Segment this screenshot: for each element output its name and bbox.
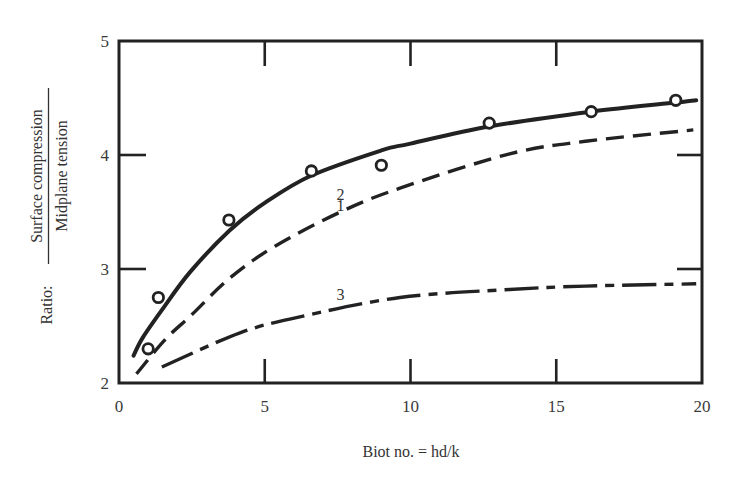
chart: 051015202345 123 Biot no. = hd/k Ratio: … xyxy=(0,0,735,484)
data-point-marker xyxy=(143,344,153,354)
axis-ticks: 051015202345 xyxy=(101,32,711,416)
plot-frame xyxy=(119,41,702,383)
curve-3 xyxy=(162,284,696,367)
data-point-marker xyxy=(376,160,386,170)
y-tick-label: 5 xyxy=(101,32,110,51)
data-point-marker xyxy=(484,118,494,128)
y-axis-title-prefix: Ratio: xyxy=(38,285,55,324)
y-tick-label: 2 xyxy=(101,374,110,393)
plot-frame-border xyxy=(119,41,702,383)
y-tick-label: 4 xyxy=(101,146,110,165)
x-tick-label: 10 xyxy=(402,397,419,416)
curve-2 xyxy=(137,130,694,374)
y-tick-label: 3 xyxy=(101,260,110,279)
x-tick-label: 0 xyxy=(115,397,124,416)
data-point-marker xyxy=(671,95,681,105)
x-tick-label: 5 xyxy=(261,397,270,416)
data-point-marker xyxy=(153,292,163,302)
x-axis-title: Biot no. = hd/k xyxy=(362,443,459,460)
curves xyxy=(134,100,697,374)
curve-label-2: 2 xyxy=(337,186,345,203)
data-point-marker xyxy=(586,106,596,116)
curve-labels: 123 xyxy=(337,186,345,303)
y-axis-title-numerator: Surface compression xyxy=(28,109,46,243)
y-axis-title-denominator: Midplane tension xyxy=(53,120,71,232)
data-points xyxy=(143,95,681,354)
x-tick-label: 15 xyxy=(548,397,565,416)
curve-label-3: 3 xyxy=(337,286,345,303)
x-tick-label: 20 xyxy=(694,397,711,416)
data-point-marker xyxy=(224,215,234,225)
y-axis-title: Ratio: Surface compression Midplane tens… xyxy=(28,88,71,325)
data-point-marker xyxy=(306,166,316,176)
